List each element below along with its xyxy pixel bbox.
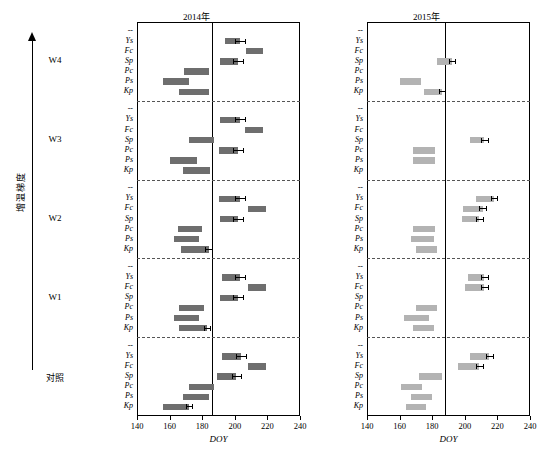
bar-2014-对照-Ps <box>183 394 209 400</box>
error-bar-cap <box>491 196 492 201</box>
species-tick-label: -- <box>107 27 133 35</box>
error-bar-cap <box>233 295 234 300</box>
gradient-arrow-line <box>32 40 33 370</box>
error-bar-cap <box>486 206 487 211</box>
error-bar-cap <box>488 285 489 290</box>
bar-2014-W4-Kp <box>179 89 208 95</box>
error-bar-cap <box>481 138 482 143</box>
bar-2014-对照-Pc <box>189 384 213 390</box>
species-tick-label: Sp <box>337 293 363 301</box>
error-bar <box>235 119 245 120</box>
species-tick-label: Ps <box>337 77 363 85</box>
species-tick-label: Sp <box>337 215 363 223</box>
bar-2015-对照-Pc <box>401 384 422 390</box>
figure-root: 增温梯度 2014年 2015年 140160180200220240DOY14… <box>0 0 539 465</box>
species-tick-label: Pc <box>107 225 133 233</box>
error-bar-cap <box>486 354 487 359</box>
species-tick-label: Sp <box>337 372 363 380</box>
error-bar-cap <box>186 404 187 409</box>
species-tick-label: Ps <box>337 314 363 322</box>
species-tick-label: Ys <box>337 115 363 123</box>
species-tick-label: Kp <box>107 402 133 410</box>
error-bar <box>235 277 245 278</box>
group-divider <box>137 337 300 338</box>
species-tick-label: Fc <box>337 283 363 291</box>
x-tick-label: 200 <box>220 421 250 431</box>
bar-2015-对照-Sp <box>419 373 442 379</box>
species-tick-label: Kp <box>107 324 133 332</box>
species-tick-label: Pc <box>107 146 133 154</box>
bar-2014-W1-Fc <box>248 284 266 290</box>
species-tick-label: -- <box>337 105 363 113</box>
bar-2014-对照-Fc <box>248 363 266 369</box>
species-tick-label: Ys <box>107 37 133 45</box>
species-tick-label: Sp <box>337 57 363 65</box>
x-tick-label: 140 <box>122 421 152 431</box>
error-bar-cap <box>235 196 236 201</box>
bar-2015-W1-Kp <box>413 325 434 331</box>
species-tick-label: Kp <box>107 245 133 253</box>
error-bar-cap <box>236 354 237 359</box>
species-tick-label: Kp <box>107 166 133 174</box>
species-tick-label: Pc <box>337 67 363 75</box>
bar-2014-W2-Ps <box>174 236 198 242</box>
error-bar-cap <box>476 217 477 222</box>
reference-line-2014 <box>212 22 213 416</box>
species-tick-label: Fc <box>107 126 133 134</box>
error-bar <box>236 356 246 357</box>
gradient-arrow-head <box>28 32 36 41</box>
bar-2014-W3-Ps <box>170 157 198 163</box>
bar-2015-W1-Ps <box>404 315 428 321</box>
error-bar-cap <box>212 247 213 252</box>
species-tick-label: -- <box>337 184 363 192</box>
x-tick-label: 160 <box>385 421 415 431</box>
error-bar <box>235 41 245 42</box>
species-tick-label: Fc <box>107 47 133 55</box>
species-tick-label: Pc <box>107 67 133 75</box>
error-bar-cap <box>235 275 236 280</box>
error-bar-cap <box>481 285 482 290</box>
error-bar-cap <box>245 39 246 44</box>
species-tick-label: Pc <box>107 303 133 311</box>
group-label-W1: W1 <box>38 292 72 302</box>
species-tick-label: Fc <box>337 47 363 55</box>
species-tick-label: Ys <box>337 37 363 45</box>
x-tick-label: 180 <box>187 421 217 431</box>
group-label-W3: W3 <box>38 134 72 144</box>
species-tick-label: Fc <box>107 283 133 291</box>
error-bar-cap <box>233 148 234 153</box>
species-tick-label: Ys <box>107 273 133 281</box>
species-tick-label: Ys <box>337 273 363 281</box>
error-bar-cap <box>488 275 489 280</box>
species-tick-label: Kp <box>337 87 363 95</box>
bar-2014-W1-Pc <box>179 305 203 311</box>
error-bar-cap <box>246 354 247 359</box>
bar-2015-W1-Pc <box>416 305 437 311</box>
bar-2015-对照-Kp <box>406 404 426 410</box>
species-tick-label: Ps <box>107 314 133 322</box>
species-tick-label: Fc <box>337 126 363 134</box>
group-divider <box>367 258 530 259</box>
bar-2014-W4-Ps <box>163 78 189 84</box>
group-divider <box>137 180 300 181</box>
bar-2014-W1-Ps <box>174 315 198 321</box>
error-bar-cap <box>493 354 494 359</box>
species-tick-label: Ps <box>337 156 363 164</box>
x-tick <box>170 416 171 420</box>
species-tick-label: Fc <box>337 362 363 370</box>
species-tick-label: Kp <box>337 324 363 332</box>
error-bar-cap <box>233 59 234 64</box>
error-bar-cap <box>192 404 193 409</box>
species-tick-label: Ys <box>107 115 133 123</box>
error-bar-cap <box>455 59 456 64</box>
bar-2015-W3-Ps <box>413 157 436 163</box>
error-bar-cap <box>479 206 480 211</box>
error-bar-cap <box>232 374 233 379</box>
species-tick-label: Kp <box>107 87 133 95</box>
x-tick <box>400 416 401 420</box>
x-tick <box>202 416 203 420</box>
group-divider <box>367 337 530 338</box>
error-bar-cap <box>205 247 206 252</box>
species-tick-label: Pc <box>337 303 363 311</box>
species-tick-label: Ps <box>337 235 363 243</box>
